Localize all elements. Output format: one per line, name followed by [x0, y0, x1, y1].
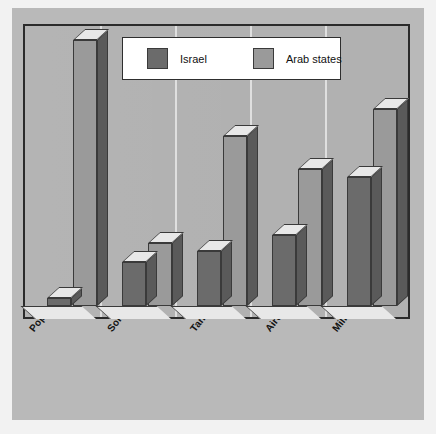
legend-label: Israel: [180, 53, 207, 65]
chart-figure: IsraelArab states PopulationSoldiersTank…: [0, 0, 436, 434]
bar-side-face: [322, 159, 333, 306]
bar-side-face: [397, 99, 408, 306]
bar-front-face: [272, 235, 296, 306]
legend-label: Arab states: [286, 53, 342, 65]
bar-front-face: [122, 262, 146, 306]
bar-side-face: [221, 241, 232, 306]
floor-wedge: [321, 306, 396, 319]
legend-entry-arab-states[interactable]: Arab states: [253, 48, 342, 69]
bar-front-face: [47, 298, 71, 306]
bar-population-arab-states[interactable]: [73, 40, 97, 306]
legend-swatch-icon: [147, 48, 168, 69]
bar-side-face: [371, 167, 382, 306]
bar-front-face: [73, 40, 97, 306]
bar-side-face: [247, 126, 258, 306]
bar-aircraft-israel[interactable]: [272, 235, 296, 306]
bar-side-face: [97, 30, 108, 306]
floor-wedge: [21, 306, 96, 319]
bar-soldiers-israel[interactable]: [122, 262, 146, 306]
bar-front-face: [347, 177, 371, 306]
bar-population-israel[interactable]: [47, 298, 71, 306]
chart-legend: IsraelArab states: [122, 37, 341, 80]
bar-side-face: [172, 233, 183, 306]
bar-military-expenditure-israel[interactable]: [347, 177, 371, 306]
legend-swatch-icon: [253, 48, 274, 69]
floor-wedge: [246, 306, 321, 319]
floor-wedge: [171, 306, 246, 319]
bar-front-face: [197, 251, 221, 306]
bar-side-face: [296, 225, 307, 306]
bar-tanks-israel[interactable]: [197, 251, 221, 306]
legend-entry-israel[interactable]: Israel: [147, 48, 207, 69]
floor-wedge: [96, 306, 171, 319]
